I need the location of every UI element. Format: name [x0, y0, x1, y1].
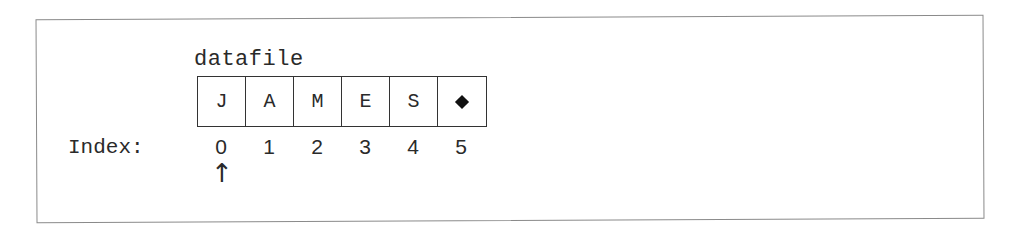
index-label: Index:	[68, 136, 144, 159]
index-2: 2	[293, 135, 341, 159]
index-0: 0	[197, 135, 245, 159]
index-1: 1	[245, 135, 293, 159]
index-5: 5	[437, 135, 485, 159]
index-row: 0 1 2 3 4 5	[197, 135, 485, 159]
index-4: 4	[389, 135, 437, 159]
array-cell-3: E	[342, 77, 390, 126]
array-cell-2: M	[294, 77, 342, 126]
diagram-frame	[36, 15, 985, 224]
diamond-icon	[455, 94, 469, 108]
array-cell-5-eof	[438, 77, 486, 126]
array-cell-4: S	[390, 77, 438, 126]
array-cells: J A M E S	[197, 76, 487, 127]
pointer-arrow-icon: ↑	[211, 160, 233, 186]
array-name-label: datafile	[194, 47, 304, 72]
array-cell-0: J	[198, 77, 246, 126]
array-cell-1: A	[246, 77, 294, 126]
index-3: 3	[341, 135, 389, 159]
